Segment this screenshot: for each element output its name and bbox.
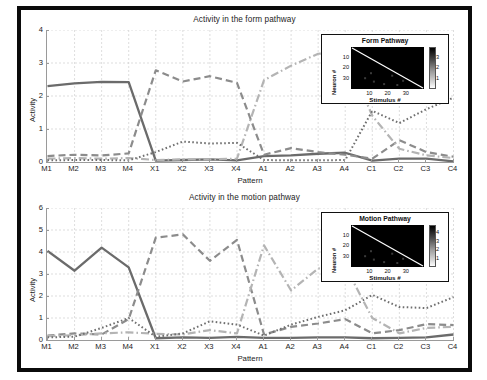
x-tick-mark xyxy=(47,159,48,162)
x-tick-mark xyxy=(263,337,264,340)
x-tick-mark xyxy=(209,337,210,340)
x-tick-label: A2 xyxy=(280,164,300,173)
y-tick-label: 4 xyxy=(29,25,43,34)
y-tick-mark xyxy=(46,274,49,275)
x-tick-label: A4 xyxy=(334,342,354,351)
figure-root: Activity in the form pathway Activity Pa… xyxy=(0,0,487,380)
motion-inset-x-label: Stimulus # xyxy=(322,274,448,281)
x-tick-label: A3 xyxy=(307,342,327,351)
y-tick-label: 1 xyxy=(29,313,43,322)
x-tick-label: C2 xyxy=(388,342,408,351)
x-tick-mark xyxy=(425,159,426,162)
x-tick-label: C3 xyxy=(415,342,435,351)
figure-frame: Activity in the form pathway Activity Pa… xyxy=(17,6,472,372)
x-tick-label: A4 xyxy=(334,164,354,173)
x-tick-label: M1 xyxy=(37,164,57,173)
inset-x-tick-label: 30 xyxy=(400,90,412,96)
motion-pathway-inset: Motion Pathway Neuron # Stimulus # 10203… xyxy=(321,212,449,282)
x-tick-mark xyxy=(398,159,399,162)
x-tick-label: M3 xyxy=(91,164,111,173)
panel-form-pathway: Activity in the form pathway Activity Pa… xyxy=(21,10,468,188)
y-tick-mark xyxy=(46,230,49,231)
x-tick-label: M2 xyxy=(64,164,84,173)
colorbar-tick-label: 2 xyxy=(436,64,439,70)
x-tick-mark xyxy=(236,159,237,162)
x-tick-mark xyxy=(290,159,291,162)
form-inset-y-label: Neuron # xyxy=(331,70,337,95)
form-pathway-inset: Form Pathway Neuron # Stimulus # 1020301… xyxy=(321,34,449,104)
form-inset-x-label: Stimulus # xyxy=(322,96,448,103)
x-tick-mark xyxy=(182,159,183,162)
x-tick-label: M4 xyxy=(118,342,138,351)
y-tick-label: 5 xyxy=(29,225,43,234)
form-plot-title: Activity in the form pathway xyxy=(21,15,468,24)
y-tick-mark xyxy=(46,96,49,97)
panel-motion-pathway: Activity in the motion pathway Activity … xyxy=(21,190,468,368)
motion-inset-colorbar xyxy=(429,225,436,267)
x-tick-mark xyxy=(344,337,345,340)
y-tick-mark xyxy=(46,340,49,341)
y-tick-label: 3 xyxy=(29,269,43,278)
y-tick-label: 2 xyxy=(29,91,43,100)
x-tick-label: X2 xyxy=(172,342,192,351)
motion-inset-heatmap xyxy=(351,225,424,267)
x-tick-label: C4 xyxy=(443,342,463,351)
x-tick-mark xyxy=(128,337,129,340)
x-tick-label: C1 xyxy=(361,342,381,351)
x-tick-mark xyxy=(101,159,102,162)
y-tick-mark xyxy=(46,63,49,64)
y-tick-label: 1 xyxy=(29,124,43,133)
inset-x-tick-label: 30 xyxy=(400,268,412,274)
x-tick-mark xyxy=(236,337,237,340)
x-tick-label: C4 xyxy=(443,164,463,173)
x-tick-mark xyxy=(101,337,102,340)
y-tick-mark xyxy=(46,162,49,163)
x-tick-mark xyxy=(344,159,345,162)
x-tick-label: M3 xyxy=(91,342,111,351)
x-tick-mark xyxy=(453,337,454,340)
form-y-axis-label: Activity xyxy=(28,98,37,122)
y-tick-mark xyxy=(46,318,49,319)
x-tick-mark xyxy=(155,337,156,340)
motion-plot-title: Activity in the motion pathway xyxy=(21,193,468,202)
x-tick-mark xyxy=(317,159,318,162)
x-tick-mark xyxy=(263,159,264,162)
x-tick-mark xyxy=(47,337,48,340)
x-tick-label: X1 xyxy=(145,342,165,351)
y-tick-mark xyxy=(46,296,49,297)
inset-y-tick-label: 20 xyxy=(339,64,349,70)
motion-inset-title: Motion Pathway xyxy=(322,215,448,222)
inset-x-tick-label: 20 xyxy=(382,90,394,96)
x-tick-mark xyxy=(182,337,183,340)
inset-y-tick-label: 30 xyxy=(339,75,349,81)
form-inset-heatmap xyxy=(351,47,424,89)
colorbar-tick-label: 2 xyxy=(436,246,439,252)
x-tick-mark xyxy=(425,337,426,340)
x-tick-label: X1 xyxy=(145,164,165,173)
inset-y-tick-label: 10 xyxy=(339,232,349,238)
x-tick-mark xyxy=(371,337,372,340)
colorbar-tick-label: 3 xyxy=(436,54,439,60)
y-tick-label: 2 xyxy=(29,291,43,300)
y-tick-mark xyxy=(46,129,49,130)
x-tick-label: X4 xyxy=(226,342,246,351)
y-tick-mark xyxy=(46,30,49,31)
x-tick-mark xyxy=(453,159,454,162)
x-tick-mark xyxy=(317,337,318,340)
colorbar-tick-label: 4 xyxy=(436,229,439,235)
x-tick-mark xyxy=(128,159,129,162)
inset-x-tick-label: 20 xyxy=(382,268,394,274)
inset-x-tick-label: 10 xyxy=(363,90,375,96)
x-tick-label: M1 xyxy=(37,342,57,351)
y-tick-mark xyxy=(46,252,49,253)
colorbar-tick-label: 1 xyxy=(436,255,439,261)
x-tick-label: X4 xyxy=(226,164,246,173)
y-tick-mark xyxy=(46,208,49,209)
x-tick-mark xyxy=(371,159,372,162)
x-tick-mark xyxy=(155,159,156,162)
form-inset-title: Form Pathway xyxy=(322,37,448,44)
x-tick-label: X3 xyxy=(199,342,219,351)
x-tick-label: X3 xyxy=(199,164,219,173)
x-tick-label: C2 xyxy=(388,164,408,173)
x-tick-label: C3 xyxy=(415,164,435,173)
